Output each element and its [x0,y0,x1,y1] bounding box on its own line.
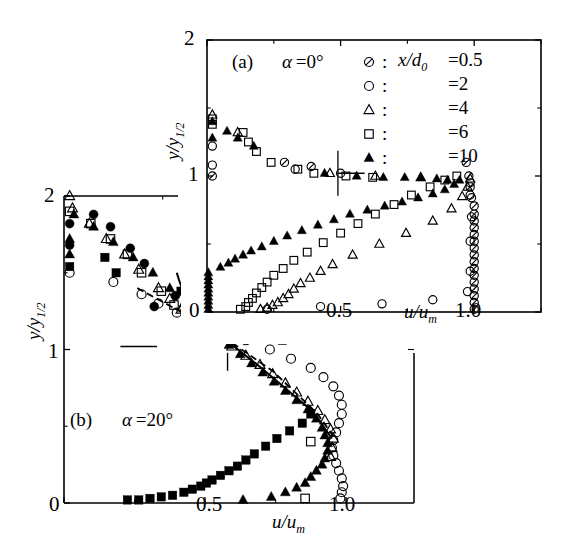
panel-b-ytick-1: 1 [48,341,59,362]
panel-a-ytick-1: 1 [188,164,199,185]
panel-b-xaxis-den: u [287,511,297,532]
panel-a-yaxis-slash: / [162,146,183,151]
panel-a-yaxis-den: y [162,138,183,146]
panel-a-xaxis-den: u [419,301,429,322]
legend-value-3: =6 [448,122,468,141]
panel-b-xaxis-den-sub: m [296,522,305,536]
legend-colon-4: : [382,148,387,167]
panel-b-yaxis-den: y [23,318,44,326]
panel-a-xaxis-title: u/um [404,302,437,325]
legend-value-4: =10 [448,146,478,165]
legend-colon-1: : [382,76,387,95]
panel-a-xaxis-den-sub: m [428,312,437,326]
panel-b-ytick-2: 2 [44,185,55,206]
panel-b-angle: 20° [147,409,174,430]
legend-value-2: =4 [448,98,468,117]
panel-a-yaxis-num: y [162,152,183,160]
legend-value-1: =2 [448,74,468,93]
panel-b-yaxis-slash: / [23,326,44,331]
panel-a-id: (a) [232,52,253,71]
legend-header: x/d0 [398,50,427,73]
panel-b-xtick-0: 0 [49,494,60,515]
panel-b-yaxis-title: y/y1/2 [24,303,47,341]
panel-a-xtick-10: 1.0 [455,300,481,321]
panel-a-ytick-2: 2 [184,28,195,49]
legend-header-sub: 0 [421,60,427,74]
panel-b-id: (b) [70,410,92,429]
panel-a-xtick-05: 0.5 [326,300,352,321]
panel-b-xtick-10: 1.0 [329,494,355,515]
panel-a-alpha-symbol: α [282,51,292,72]
panel-a-yaxis-title: y/y1/2 [163,123,186,161]
panel-a-yaxis-den-sub: 1/2 [173,123,187,138]
figure-canvas: 2 1 0 0.5 1.0 u/um y/y1/2 (a) α =0° : : … [0,0,574,548]
legend-colon-3: : [382,124,387,143]
panel-b-yaxis-num: y [23,332,44,340]
panel-b-alpha-symbol: α [122,409,132,430]
panel-a-ytick-0: 0 [189,300,200,321]
panel-b-yaxis-den-sub: 1/2 [34,303,48,318]
panel-b-xtick-05: 0.5 [196,494,222,515]
panel-a-xaxis-num: u [404,301,414,322]
panel-b-equals: = [136,409,147,430]
legend-colon-0: : [382,52,387,71]
panel-a-graphics [0,0,574,548]
panel-b-xaxis-num: u [272,511,282,532]
panel-a-angle: 0° [307,51,324,72]
legend-value-0: =0.5 [448,50,482,69]
panel-b-xaxis-title: u/um [272,512,305,535]
panel-a-equals: = [296,51,307,72]
panel-a-condition: α =0° [282,52,324,71]
panel-a-backing [181,26,569,344]
legend-colon-2: : [382,100,387,119]
panel-b-condition: α =20° [122,410,173,429]
legend-header-var: x/d [398,49,421,70]
